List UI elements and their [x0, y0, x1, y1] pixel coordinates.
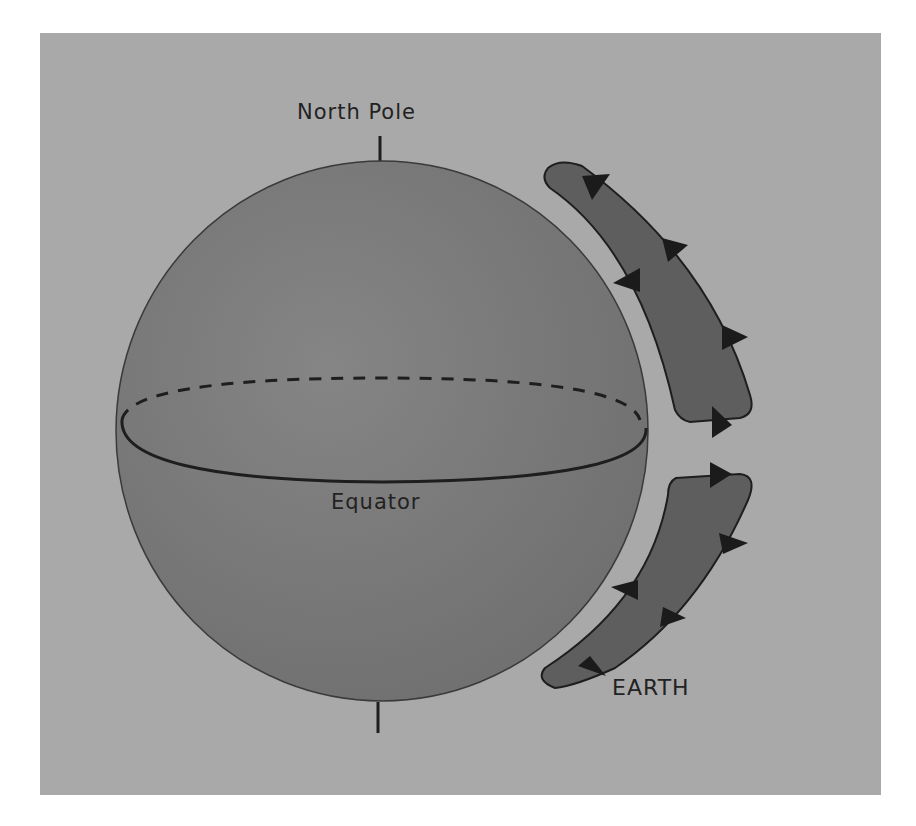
north-pole-label: North Pole	[297, 100, 416, 124]
sphere	[116, 161, 648, 701]
earth-label: EARTH	[612, 675, 690, 700]
arrow-icon	[722, 325, 748, 350]
arrow-icon	[719, 533, 748, 554]
equator-label: Equator	[331, 490, 421, 514]
sphere-diagram	[0, 0, 916, 826]
